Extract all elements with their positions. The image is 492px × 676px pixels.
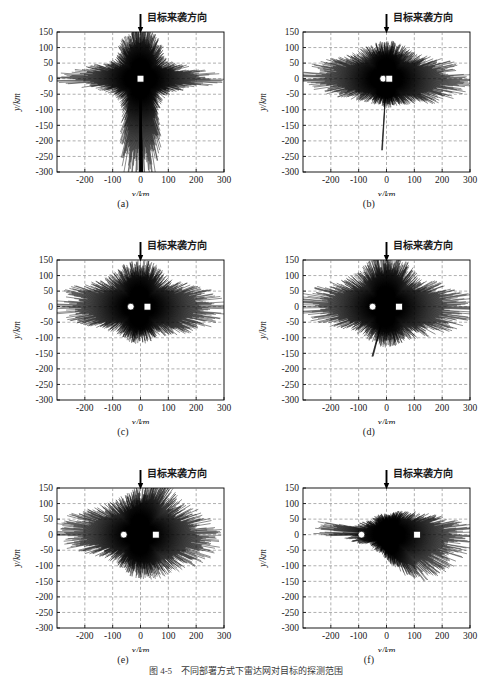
panel-label-d: (d)	[246, 426, 492, 437]
radar-marker-square	[144, 303, 151, 310]
panel-e: 目标来袭方向-200-1000100200300150100500-50-100…	[0, 456, 246, 676]
y-tick-label: -100	[282, 333, 300, 343]
panel-label-b: (b)	[246, 198, 492, 209]
radar-marker-square	[137, 75, 144, 82]
x-axis-title: x/km	[377, 190, 396, 196]
x-tick-label: -200	[76, 631, 94, 641]
x-tick-label: 300	[463, 631, 478, 641]
y-tick-label: -150	[36, 121, 54, 131]
plot-f: 目标来袭方向-200-1000100200300150100500-50-100…	[246, 456, 492, 652]
y-tick-label: 0	[48, 530, 53, 540]
radar-marker-circle	[369, 303, 376, 310]
y-axis-title: y/km	[12, 321, 22, 340]
x-axis-title: x/km	[131, 190, 150, 196]
radar-marker-square	[396, 303, 403, 310]
figure-radar-coverage: 目标来袭方向-200-1000100200300150100500-50-100…	[0, 0, 492, 676]
incoming-direction-label: 目标来袭方向	[147, 239, 207, 251]
x-tick-label: -100	[104, 175, 122, 185]
panel-label-a: (a)	[0, 198, 246, 209]
panel-b: 目标来袭方向-200-1000100200300150100500-50-100…	[246, 0, 492, 226]
y-tick-label: -150	[282, 349, 300, 359]
y-tick-label: 0	[48, 302, 53, 312]
y-tick-label: 0	[294, 74, 299, 84]
incoming-direction-label: 目标来袭方向	[147, 467, 207, 479]
y-tick-label: -300	[36, 167, 54, 177]
y-axis-title: y/km	[12, 549, 22, 568]
y-tick-label: 150	[39, 255, 54, 265]
y-tick-label: -100	[36, 561, 54, 571]
y-tick-label: -250	[36, 380, 54, 390]
y-axis-title: y/km	[12, 93, 22, 112]
x-tick-label: 0	[138, 403, 143, 413]
panel-f: 目标来袭方向-200-1000100200300150100500-50-100…	[246, 456, 492, 676]
plot-a: 目标来袭方向-200-1000100200300150100500-50-100…	[0, 0, 246, 196]
y-tick-label: -200	[36, 364, 54, 374]
y-tick-label: 0	[294, 530, 299, 540]
incoming-direction-label: 目标来袭方向	[393, 239, 453, 251]
radar-marker-circle	[127, 303, 134, 310]
x-tick-label: 200	[435, 403, 450, 413]
y-tick-label: 100	[39, 271, 54, 281]
x-tick-label: 0	[384, 631, 389, 641]
y-tick-label: -250	[282, 608, 300, 618]
y-tick-label: -250	[282, 380, 300, 390]
x-tick-label: 100	[161, 175, 176, 185]
y-tick-label: 100	[285, 499, 300, 509]
y-tick-label: 100	[39, 43, 54, 53]
y-tick-label: -50	[40, 89, 53, 99]
plot-c: 目标来袭方向-200-1000100200300150100500-50-100…	[0, 228, 246, 424]
radar-marker-square	[414, 531, 421, 538]
plot-b: 目标来袭方向-200-1000100200300150100500-50-100…	[246, 0, 492, 196]
y-tick-label: -200	[282, 364, 300, 374]
x-axis-title: x/km	[377, 646, 396, 652]
x-tick-label: 0	[138, 631, 143, 641]
y-tick-label: 50	[44, 58, 54, 68]
x-axis-title: x/km	[377, 418, 396, 424]
y-tick-label: -150	[282, 577, 300, 587]
y-tick-label: 50	[290, 514, 300, 524]
y-tick-label: -50	[40, 317, 53, 327]
x-tick-label: 0	[384, 403, 389, 413]
x-tick-label: 200	[189, 403, 204, 413]
plot-e: 目标来袭方向-200-1000100200300150100500-50-100…	[0, 456, 246, 652]
y-tick-label: 0	[48, 74, 53, 84]
x-tick-label: -200	[76, 403, 94, 413]
x-tick-label: 100	[161, 631, 176, 641]
y-axis-title: y/km	[258, 321, 268, 340]
radar-marker-square	[152, 531, 159, 538]
panel-a: 目标来袭方向-200-1000100200300150100500-50-100…	[0, 0, 246, 226]
x-tick-label: -200	[322, 631, 340, 641]
x-tick-label: -200	[322, 403, 340, 413]
y-tick-label: -50	[40, 545, 53, 555]
y-tick-label: 150	[285, 483, 300, 493]
y-tick-label: 150	[39, 27, 54, 37]
plot-d: 目标来袭方向-200-1000100200300150100500-50-100…	[246, 228, 492, 424]
y-tick-label: -250	[36, 608, 54, 618]
panel-d: 目标来袭方向-200-1000100200300150100500-50-100…	[246, 228, 492, 454]
y-tick-label: -300	[282, 395, 300, 405]
y-tick-label: -150	[36, 577, 54, 587]
incoming-direction-label: 目标来袭方向	[147, 11, 207, 23]
y-tick-label: 100	[285, 271, 300, 281]
x-tick-label: -200	[76, 175, 94, 185]
y-tick-label: -300	[36, 395, 54, 405]
x-tick-label: 200	[435, 175, 450, 185]
x-tick-label: -100	[350, 631, 368, 641]
figure-caption: 图 4-5 不同部署方式下雷达网对目标的探测范围	[0, 664, 492, 676]
x-tick-label: 300	[217, 403, 232, 413]
y-tick-label: -100	[36, 333, 54, 343]
y-tick-label: -300	[36, 623, 54, 633]
y-tick-label: 0	[294, 302, 299, 312]
panel-label-c: (c)	[0, 426, 246, 437]
x-tick-label: 200	[189, 175, 204, 185]
x-axis-title: x/km	[131, 646, 150, 652]
incoming-direction-label: 目标来袭方向	[393, 467, 453, 479]
y-tick-label: -50	[286, 545, 299, 555]
y-tick-label: 50	[44, 286, 54, 296]
incoming-direction-label: 目标来袭方向	[393, 11, 453, 23]
y-tick-label: -100	[282, 105, 300, 115]
x-tick-label: -100	[104, 403, 122, 413]
panel-c: 目标来袭方向-200-1000100200300150100500-50-100…	[0, 228, 246, 454]
y-tick-label: -50	[286, 317, 299, 327]
y-tick-label: 150	[39, 483, 54, 493]
